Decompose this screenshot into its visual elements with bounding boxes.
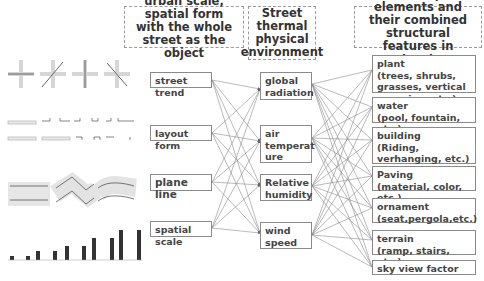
header-landscape-elements: landscape elements and their combined st… <box>354 6 482 48</box>
box-air-temperature: airtemperature <box>260 125 312 163</box>
box-global-radiation: globalradiation <box>260 72 312 100</box>
layout-form-icons <box>8 121 70 140</box>
box-paving: Paving(material, color, etc.) <box>372 166 476 191</box>
header-urban-scale: urban scale, spatial form with the whole… <box>124 6 244 48</box>
box-wind-speed: windspeed <box>260 222 312 249</box>
plane-line-icons <box>8 177 136 206</box>
box-water: water(pool, fountain, etc.) <box>372 97 476 123</box>
box-street-trend: street trend <box>150 72 212 88</box>
box-plane-line: plane line <box>150 174 212 191</box>
urban-form-illustrations <box>0 55 150 265</box>
box-plant: plant(trees, shrubs, grasses, vertical g… <box>372 55 476 93</box>
box-terrain: terrain(ramp, stairs, etc.) <box>372 230 476 255</box>
box-relative-humidity: Relativehumidity <box>260 174 312 201</box>
box-layout-form: layout form <box>150 125 212 141</box>
spatial-scale-bars <box>10 230 141 260</box>
box-building: building(Riding, verhanging, etc.) <box>372 127 476 164</box>
box-ornament: ornament(seat,pergola,etc.) <box>372 198 476 223</box>
box-spatial-scale: spatial scale <box>150 221 212 237</box>
box-sky-view-factor: sky view factor <box>372 260 476 275</box>
header-thermal-environment: Street thermal physical environment <box>248 6 316 60</box>
